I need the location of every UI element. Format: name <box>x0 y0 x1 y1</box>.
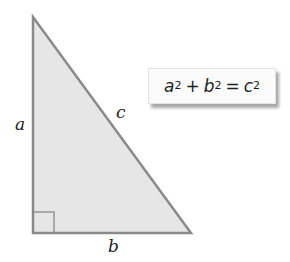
side-label-a: a <box>15 116 25 133</box>
formula-term-c: c <box>244 76 253 96</box>
formula-term-b: b <box>204 76 215 96</box>
formula-plus: + <box>185 76 199 96</box>
side-label-c: c <box>116 104 126 121</box>
triangle-diagram <box>0 0 290 262</box>
formula-equals: = <box>225 76 239 96</box>
formula-exponent-a: 2 <box>174 79 181 92</box>
formula-exponent-b: 2 <box>214 79 221 92</box>
side-label-b: b <box>108 238 119 255</box>
right-triangle <box>33 17 191 233</box>
formula-exponent-c: 2 <box>253 79 260 92</box>
pythagorean-formula-box: a2 + b2 = c2 <box>148 68 276 104</box>
formula-term-a: a <box>164 76 174 96</box>
